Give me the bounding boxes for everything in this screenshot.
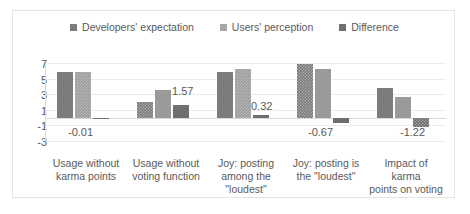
category-label-usage-without-voting-function: Usage without voting function bbox=[126, 157, 206, 196]
legend-label-difference: Difference bbox=[351, 21, 399, 33]
bar-developers-expectation[interactable] bbox=[217, 72, 233, 118]
bar-users-perception[interactable] bbox=[395, 97, 411, 118]
bar-developers-expectation[interactable] bbox=[57, 72, 73, 118]
bar-developers-expectation[interactable] bbox=[297, 64, 313, 117]
y-tick-5: 5 bbox=[21, 75, 47, 86]
value-label-difference: -0.01 bbox=[68, 127, 93, 138]
bar-difference[interactable] bbox=[253, 115, 269, 118]
category-line-2: the "loudest" bbox=[289, 170, 363, 183]
bar-group-joy-posting-is-the-loudest: -0.67 bbox=[286, 63, 366, 141]
y-tick-neg1: -1 bbox=[21, 121, 47, 132]
category-line-1: Joy: posting is bbox=[289, 157, 363, 170]
category-line-3: "loudest" bbox=[209, 183, 283, 196]
category-label-joy-posting-among-the-loudest: Joy: posting among the "loudest" bbox=[206, 157, 286, 196]
y-tick-neg3: -3 bbox=[21, 137, 47, 148]
bar-groups: -0.01 1.57 0.32 -0.67 bbox=[46, 63, 446, 141]
value-label-difference: -1.22 bbox=[400, 127, 425, 138]
legend-label-users-perception: Users' perception bbox=[232, 21, 313, 33]
category-line-2: karma points bbox=[49, 170, 123, 183]
bar-group-usage-without-voting-function: 1.57 bbox=[126, 63, 206, 141]
category-line-2: voting function bbox=[129, 170, 203, 183]
legend-item-difference[interactable]: Difference bbox=[339, 21, 399, 33]
y-tick-1: 1 bbox=[21, 106, 47, 117]
legend-label-developers-expectation: Developers' expectation bbox=[82, 21, 194, 33]
bar-developers-expectation[interactable] bbox=[137, 102, 153, 118]
bar-users-perception[interactable] bbox=[315, 69, 331, 117]
bar-developers-expectation[interactable] bbox=[377, 88, 393, 118]
category-line-1: Usage without bbox=[49, 157, 123, 170]
category-label-usage-without-karma-points: Usage without karma points bbox=[46, 157, 126, 196]
x-axis-category-labels: Usage without karma points Usage without… bbox=[46, 157, 446, 196]
category-label-impact-of-karma-points-on-voting: Impact of karma points on voting bbox=[366, 157, 446, 196]
y-tick-3: 3 bbox=[21, 90, 47, 101]
legend-item-developers-expectation[interactable]: Developers' expectation bbox=[70, 21, 194, 33]
legend-swatch-users-perception bbox=[220, 24, 227, 31]
bar-group-impact-of-karma-points-on-voting: -1.22 bbox=[366, 63, 446, 141]
value-label-difference: 1.57 bbox=[172, 86, 193, 97]
bar-group-usage-without-karma-points: -0.01 bbox=[46, 63, 126, 141]
bar-group-joy-posting-among-the-loudest: 0.32 bbox=[206, 63, 286, 141]
bar-users-perception[interactable] bbox=[75, 72, 91, 118]
category-line-1: Usage without bbox=[129, 157, 203, 170]
value-label-difference: -0.67 bbox=[308, 127, 333, 138]
legend-swatch-developers-expectation bbox=[70, 24, 77, 31]
y-tick-7: 7 bbox=[21, 59, 47, 70]
category-label-joy-posting-is-the-loudest: Joy: posting is the "loudest" bbox=[286, 157, 366, 196]
category-line-1: Impact of karma bbox=[369, 157, 443, 183]
bar-users-perception[interactable] bbox=[235, 69, 251, 117]
bar-difference[interactable] bbox=[173, 105, 189, 117]
legend-item-users-perception[interactable]: Users' perception bbox=[220, 21, 313, 33]
bar-users-perception[interactable] bbox=[155, 90, 171, 118]
chart-legend: Developers' expectation Users' perceptio… bbox=[13, 21, 456, 33]
legend-swatch-difference bbox=[339, 24, 346, 31]
bar-difference[interactable] bbox=[333, 118, 349, 123]
plot-area: -0.01 1.57 0.32 -0.67 bbox=[46, 63, 446, 141]
chart-container: Developers' expectation Users' perceptio… bbox=[12, 10, 455, 198]
category-line-1: Joy: posting bbox=[209, 157, 283, 170]
value-label-difference: 0.32 bbox=[251, 101, 272, 112]
gridline-neg3 bbox=[46, 141, 446, 142]
category-line-2: points on voting bbox=[369, 183, 443, 196]
category-line-2: among the bbox=[209, 170, 283, 183]
